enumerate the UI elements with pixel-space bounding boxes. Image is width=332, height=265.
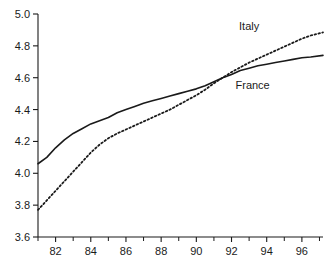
y-axis-tick-label: 4.6 <box>15 72 30 84</box>
series-label-france: France <box>236 79 270 91</box>
chart-background <box>0 0 332 265</box>
x-axis-tick-label: 94 <box>261 245 273 257</box>
x-axis-tick-label: 96 <box>296 245 308 257</box>
x-axis-tick-label: 90 <box>190 245 202 257</box>
y-axis-tick-label: 4.4 <box>15 104 30 116</box>
series-label-italy: Italy <box>239 20 260 32</box>
x-axis-tick-label: 84 <box>85 245 97 257</box>
y-axis-tick-label: 4.0 <box>15 167 30 179</box>
chart-canvas: 3.63.84.04.24.44.64.85.0 828486889092949… <box>0 0 332 265</box>
y-axis-tick-label: 4.2 <box>15 135 30 147</box>
x-axis-tick-label: 82 <box>49 245 61 257</box>
y-axis-tick-label: 3.6 <box>15 231 30 243</box>
y-axis-tick-label: 4.8 <box>15 40 30 52</box>
y-axis-tick-label: 3.8 <box>15 199 30 211</box>
line-chart: 3.63.84.04.24.44.64.85.0 828486889092949… <box>0 0 332 265</box>
x-axis-tick-label: 88 <box>155 245 167 257</box>
x-axis-tick-label: 86 <box>120 245 132 257</box>
y-axis-tick-label: 5.0 <box>15 8 30 20</box>
x-axis-tick-label: 92 <box>225 245 237 257</box>
